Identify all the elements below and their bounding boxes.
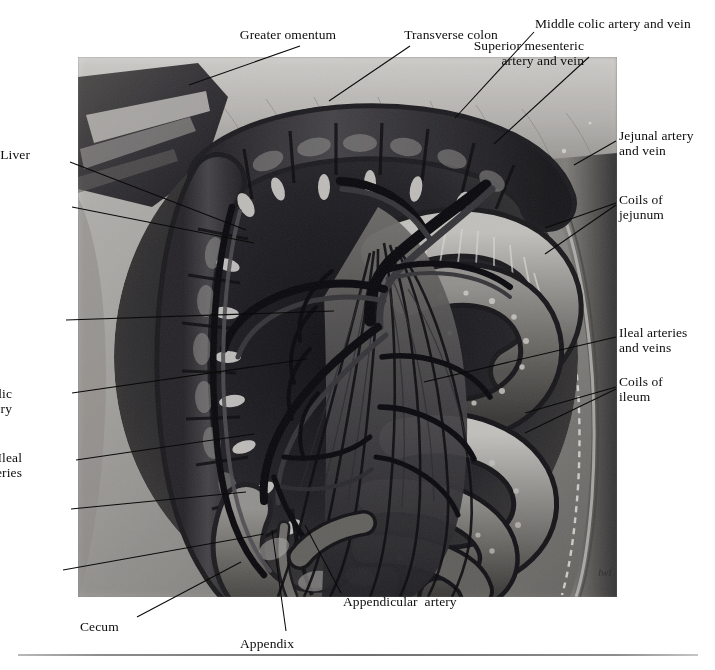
label-jejunal-artery-and-vein: Jejunal artery and vein	[619, 128, 694, 158]
anatomical-illustration-plate	[78, 57, 617, 597]
label-ileocolic-artery: Ileocolic artery	[0, 386, 12, 416]
artist-signature: lwl	[598, 566, 611, 578]
label-liver: Liver	[0, 147, 30, 162]
label-superior-mesenteric-artery-and-vein: Superior mesenteric artery and vein	[424, 38, 584, 68]
label-coils-of-jejunum: Coils of jejunum	[619, 192, 664, 222]
label-coils-of-ileum: Coils of ileum	[619, 374, 663, 404]
label-greater-omentum: Greater omentum	[208, 27, 368, 42]
label-ileal-arteries: Ileal arteries	[0, 450, 22, 480]
label-appendix: Appendix	[240, 636, 294, 651]
label-cecum: Cecum	[80, 619, 119, 634]
label-ileal-arteries-and-veins: Ileal arteries and veins	[619, 325, 687, 355]
footer-rule	[18, 654, 698, 656]
anatomy-figure-page: lwl Greater omentumTransverse colonMiddl…	[0, 0, 715, 670]
illustration-svg	[78, 57, 617, 597]
label-appendicular-artery: Appendicular artery	[343, 594, 457, 609]
label-middle-colic-artery-and-vein: Middle colic artery and vein	[535, 16, 691, 31]
